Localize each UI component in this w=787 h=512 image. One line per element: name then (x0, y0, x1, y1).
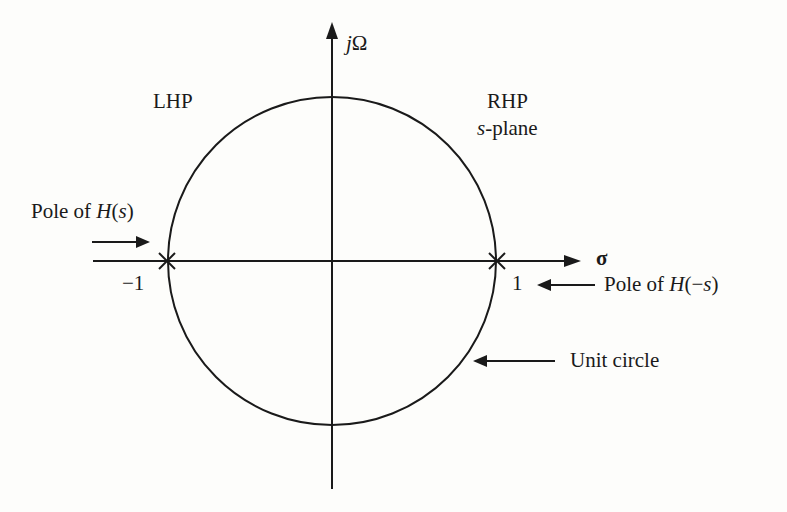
pole-hms-close: ) (712, 272, 719, 296)
pole-hms-prefix: Pole of (604, 272, 669, 296)
plane-suffix: -plane (485, 116, 537, 140)
rhp-label: RHP (487, 91, 528, 112)
sigma-axis-label: σ (596, 248, 607, 269)
tick-minus-one: −1 (122, 273, 144, 294)
pole-hs-func: H (96, 199, 111, 223)
lhp-label: LHP (153, 91, 193, 112)
pole-hs-close: ) (127, 199, 134, 223)
s-var: s (477, 116, 485, 140)
pole-hms-arrow-head-icon (537, 279, 551, 291)
sigma-axis-arrow-icon (564, 255, 581, 267)
pole-hms-open: (− (685, 272, 704, 296)
omega-label: Ω (352, 31, 368, 55)
j-omega-axis-arrow-icon (326, 22, 338, 39)
pole-hms-func: H (669, 272, 684, 296)
j-omega-axis-label: jΩ (346, 33, 367, 54)
pole-hs-label: Pole of H(s) (31, 201, 134, 222)
pole-hs-arg: s (119, 199, 127, 223)
tick-one: 1 (512, 273, 523, 294)
pole-hs-arrow-head-icon (136, 236, 150, 248)
s-plane-label: s-plane (477, 118, 538, 139)
pole-hms-arg: s (703, 272, 711, 296)
s-plane-diagram (0, 0, 787, 512)
unit-circle-arrow-head-icon (473, 355, 487, 367)
pole-hs-open: ( (112, 199, 119, 223)
pole-hs-prefix: Pole of (31, 199, 96, 223)
pole-hms-label: Pole of H(−s) (604, 274, 719, 295)
unit-circle-label: Unit circle (570, 350, 659, 371)
